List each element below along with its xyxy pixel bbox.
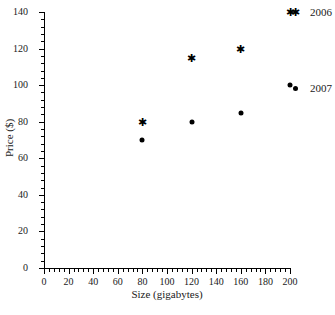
legend-star-glyph: ✱ <box>291 9 300 15</box>
x-tick-label: 0 <box>42 277 47 287</box>
y-tick-label: 140 <box>13 7 28 17</box>
data-point-2007 <box>238 110 243 115</box>
y-tick-label: 100 <box>13 80 28 90</box>
data-point-2006: ✱ <box>187 55 196 61</box>
x-tick-label: 180 <box>258 277 273 287</box>
plot-area: ✱✱✱✱ <box>44 12 290 268</box>
y-axis-title: Price ($) <box>3 83 15 193</box>
x-tick-label: 140 <box>209 277 224 287</box>
x-axis-title: Size (gigabytes) <box>44 288 290 300</box>
x-tick-label: 20 <box>64 277 74 287</box>
x-tick-label: 60 <box>113 277 123 287</box>
dot-marker-icon <box>238 110 243 115</box>
dot-marker-icon <box>288 83 302 93</box>
x-tick-label: 80 <box>137 277 147 287</box>
y-tick-label: 20 <box>18 226 28 236</box>
star-marker-icon: ✱ <box>288 7 302 17</box>
x-tick-label: 160 <box>233 277 248 287</box>
data-point-2006: ✱ <box>236 46 245 52</box>
x-tick-label: 120 <box>184 277 199 287</box>
x-tick-label: 200 <box>283 277 298 287</box>
legend-entry-2007: 2007 <box>288 82 332 94</box>
star-marker-icon: ✱ <box>138 119 147 125</box>
y-tick-label: 120 <box>13 44 28 54</box>
dot-marker-icon <box>140 138 145 143</box>
legend-label-2007: 2007 <box>310 82 332 94</box>
data-point-2007 <box>189 119 194 124</box>
star-marker-icon: ✱ <box>236 46 245 52</box>
dot-marker-icon <box>189 119 194 124</box>
x-tick-label: 40 <box>88 277 98 287</box>
legend-label-2006: 2006 <box>310 6 332 18</box>
data-point-2006: ✱ <box>138 119 147 125</box>
y-tick-label: 40 <box>18 190 28 200</box>
scatter-chart: 020406080100120140 020406080100120140160… <box>0 0 335 315</box>
y-tick-label: 0 <box>23 263 28 273</box>
x-tick-major <box>290 269 291 274</box>
star-marker-icon: ✱ <box>187 55 196 61</box>
y-tick-label: 80 <box>18 117 28 127</box>
y-tick-label: 60 <box>18 153 28 163</box>
legend-entry-2006: ✱ 2006 <box>288 6 332 18</box>
x-tick-label: 100 <box>160 277 175 287</box>
data-point-2007 <box>140 138 145 143</box>
x-axis-tick-labels: 020406080100120140160180200 <box>44 269 290 285</box>
